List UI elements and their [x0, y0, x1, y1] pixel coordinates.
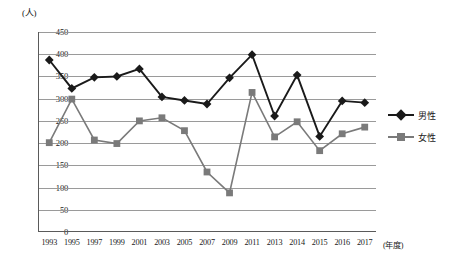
- data-point: [46, 139, 53, 146]
- data-point: [204, 169, 211, 176]
- x-tick-label: 2001: [132, 238, 148, 247]
- x-tick-label: 2017: [357, 238, 373, 247]
- data-point: [270, 112, 279, 121]
- legend-item-男性[interactable]: 男性: [388, 104, 448, 126]
- data-point: [112, 72, 121, 81]
- data-point: [91, 137, 98, 144]
- data-point: [113, 140, 120, 147]
- x-tick-label: 1999: [109, 238, 125, 247]
- x-tick-label: 1993: [41, 238, 57, 247]
- x-tick-label: 2014: [289, 238, 305, 247]
- x-tick-label: 2003: [154, 238, 170, 247]
- data-point: [249, 89, 256, 96]
- data-point: [159, 114, 166, 121]
- data-point: [180, 96, 189, 105]
- data-point: [181, 127, 188, 134]
- legend-label: 女性: [418, 131, 436, 144]
- data-point: [136, 117, 143, 124]
- legend-swatch-icon: [388, 131, 414, 143]
- series-layer: [38, 32, 376, 232]
- x-tick-label: 2011: [244, 238, 259, 247]
- x-tick-label: 2009: [222, 238, 238, 247]
- x-tick-label: 2016: [334, 238, 350, 247]
- data-point: [316, 147, 323, 154]
- line-chart: (人) 450400350300250200150100500 19931995…: [0, 0, 450, 264]
- legend-label: 男性: [418, 109, 436, 122]
- plot-area: [38, 32, 376, 232]
- data-point: [90, 73, 99, 82]
- x-axis-unit-label: (年度): [383, 238, 403, 250]
- x-tick-label: 2013: [267, 238, 283, 247]
- legend-swatch-icon: [388, 109, 414, 121]
- x-tick-label: 1995: [64, 238, 80, 247]
- x-tick-label: 1997: [87, 238, 103, 247]
- legend-item-女性[interactable]: 女性: [388, 126, 448, 148]
- data-point: [293, 71, 302, 80]
- data-point: [339, 130, 346, 137]
- data-point: [226, 189, 233, 196]
- series-line-男性: [49, 55, 364, 137]
- x-tick-label: 2015: [312, 238, 328, 247]
- chart-legend: 男性女性: [388, 104, 448, 148]
- data-point: [294, 118, 301, 125]
- data-point: [360, 98, 369, 107]
- data-point: [271, 133, 278, 140]
- data-point: [361, 124, 368, 131]
- x-tick-label: 2005: [177, 238, 193, 247]
- y-axis-unit-label: (人): [22, 6, 36, 19]
- data-point: [68, 96, 75, 103]
- x-tick-label: 2007: [199, 238, 215, 247]
